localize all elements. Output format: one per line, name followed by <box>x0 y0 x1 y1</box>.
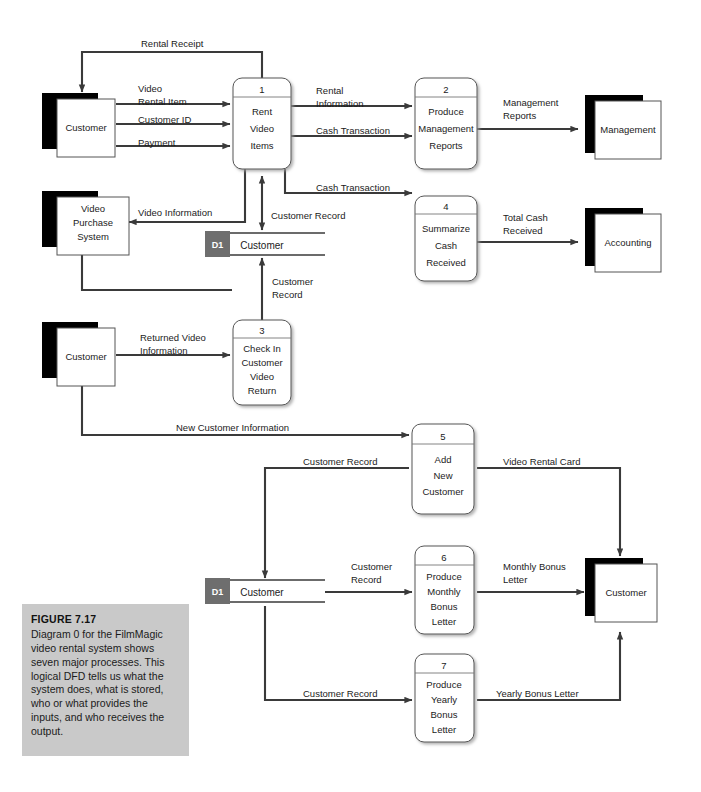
entity-vps-line1: Video <box>81 203 105 214</box>
process-2-line2: Management <box>418 123 474 134</box>
entity-vps-line3: System <box>77 231 109 242</box>
entity-management-label: Management <box>600 124 656 135</box>
label-customer-id: Customer ID <box>138 114 191 125</box>
figure-caption-box: FIGURE 7.17 Diagram 0 for the FilmMagic … <box>22 604 189 756</box>
process-4-line2: Cash <box>435 240 457 251</box>
process-1-line3: Items <box>250 140 273 151</box>
label-video-information: Video Information <box>138 207 212 218</box>
process-2-line1: Produce <box>428 106 463 117</box>
datastore-d1-bottom-id: D1 <box>212 587 224 597</box>
label-video-rental-item-1: Video <box>138 83 162 94</box>
label-customer-record-p6-1: Customer <box>351 561 392 572</box>
process-1-number: 1 <box>259 84 264 95</box>
process-3-line1: Check In <box>243 343 281 354</box>
entity-customer-right-label: Customer <box>605 587 646 598</box>
process-7-line1: Produce <box>426 679 461 690</box>
process-7-line2: Yearly <box>431 694 457 705</box>
entity-customer-mid: Customer <box>42 322 115 386</box>
process-5-line3: Customer <box>422 486 463 497</box>
entity-customer-top-label: Customer <box>65 122 106 133</box>
label-rental-receipt: Rental Receipt <box>141 38 204 49</box>
process-7-number: 7 <box>441 660 446 671</box>
label-customer-record-p3-1: Customer <box>272 276 313 287</box>
flow-lines <box>82 52 620 700</box>
label-monthly-bonus-letter-1: Monthly Bonus <box>503 561 566 572</box>
process-5-number: 5 <box>440 431 445 442</box>
process-6-line1: Produce <box>426 571 461 582</box>
process-6-line3: Bonus <box>431 601 458 612</box>
entity-customer-mid-label: Customer <box>65 351 106 362</box>
label-rental-information-1: Rental <box>316 85 343 96</box>
entity-customer-top: Customer <box>42 93 115 157</box>
process-4-number: 4 <box>443 201 448 212</box>
process-1-line2: Video <box>250 123 274 134</box>
process-4-line3: Received <box>426 257 466 268</box>
process-6-number: 6 <box>441 552 446 563</box>
process-7-line3: Bonus <box>431 709 458 720</box>
entity-video-purchase-system: Video Purchase System <box>42 191 129 255</box>
label-cash-transaction-top: Cash Transaction <box>316 125 390 136</box>
label-management-reports-2: Reports <box>503 110 537 121</box>
flow-video-rental-card-line <box>477 468 620 556</box>
label-rental-information-2: Information <box>316 98 364 109</box>
entity-vps-line2: Purchase <box>73 217 113 228</box>
label-total-cash-received-2: Received <box>503 225 543 236</box>
process-5-line1: Add <box>435 454 452 465</box>
label-video-rental-card: Video Rental Card <box>503 456 580 467</box>
label-returned-video-information-2: Information <box>140 345 188 356</box>
label-returned-video-information-1: Returned Video <box>140 332 206 343</box>
process-6-line4: Letter <box>432 616 456 627</box>
datastore-d1-bottom: D1 Customer <box>205 578 325 604</box>
label-customer-record-p7: Customer Record <box>303 688 377 699</box>
process-4-line1: Summarize <box>422 223 470 234</box>
entity-accounting: Accounting <box>585 208 661 272</box>
process-3-number: 3 <box>259 325 264 336</box>
datastore-d1-top-label: Customer <box>240 240 284 251</box>
process-7-line4: Letter <box>432 724 456 735</box>
process-3-line4: Return <box>248 385 277 396</box>
label-customer-record-p3-2: Record <box>272 289 303 300</box>
label-customer-record-top: Customer Record <box>271 210 345 221</box>
label-customer-record-p6-2: Record <box>351 574 382 585</box>
datastore-d1-bottom-label: Customer <box>240 587 284 598</box>
label-monthly-bonus-letter-2: Letter <box>503 574 527 585</box>
label-customer-record-p5: Customer Record <box>303 456 377 467</box>
flow-customer-record-p7-line <box>265 606 412 700</box>
label-payment: Payment <box>138 137 176 148</box>
figure-caption-text: Diagram 0 for the FilmMagic video rental… <box>22 625 189 739</box>
datastore-d1-top-id: D1 <box>212 240 224 250</box>
label-yearly-bonus-letter: Yearly Bonus Letter <box>496 688 579 699</box>
label-new-customer-information: New Customer Information <box>176 422 289 433</box>
label-cash-transaction-mid: Cash Transaction <box>316 182 390 193</box>
process-3-line3: Video <box>250 371 274 382</box>
label-total-cash-received-1: Total Cash <box>503 212 548 223</box>
entity-customer-right: Customer <box>585 558 657 622</box>
label-management-reports-1: Management <box>503 97 559 108</box>
process-3-line2: Customer <box>241 357 282 368</box>
figure-title: FIGURE 7.17 <box>22 604 189 625</box>
process-5-line2: New <box>433 470 452 481</box>
process-2-number: 2 <box>443 84 448 95</box>
entity-accounting-label: Accounting <box>604 237 651 248</box>
process-1-line1: Rent <box>252 106 272 117</box>
process-2-line3: Reports <box>429 140 463 151</box>
datastore-d1-top: D1 Customer <box>205 231 325 257</box>
process-6-line2: Monthly <box>427 586 461 597</box>
label-video-rental-item-2: Rental Item <box>138 96 187 107</box>
entity-management: Management <box>585 95 661 159</box>
